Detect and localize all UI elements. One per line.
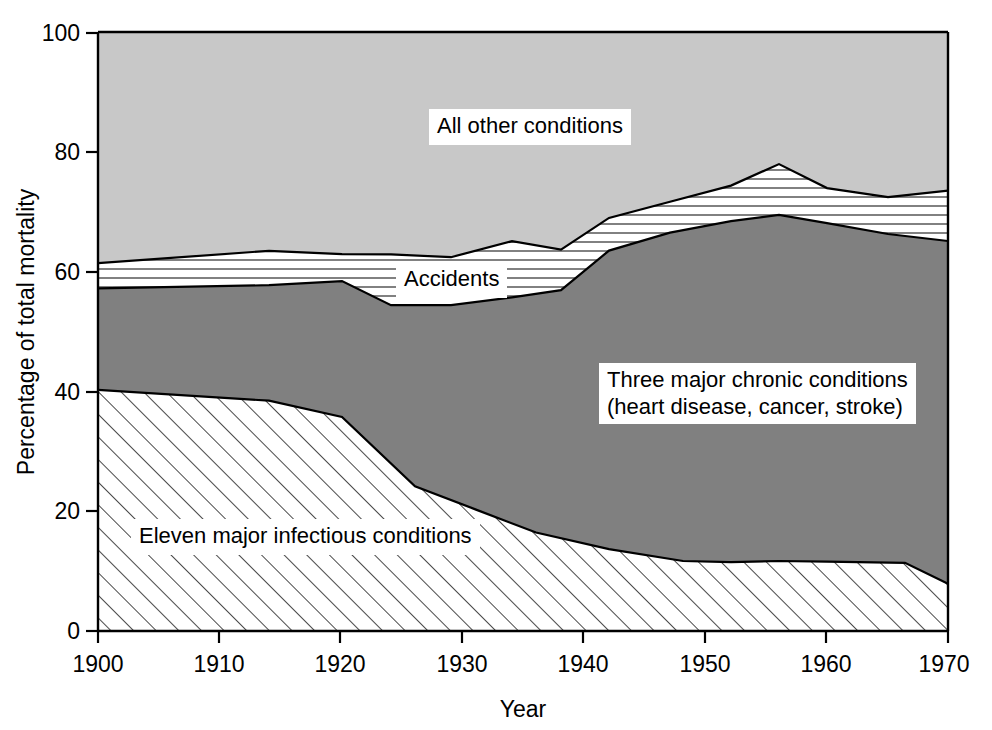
x-tick-label-1920: 1920 — [314, 651, 365, 677]
label-chronic-conditions-line2: (heart disease, cancer, stroke) — [607, 393, 908, 420]
label-chronic-conditions-line1: Three major chronic conditions — [607, 366, 908, 393]
y-tick-label-40: 40 — [54, 379, 80, 405]
x-tick-label-1910: 1910 — [193, 651, 244, 677]
label-accidents-text: Accidents — [404, 266, 499, 291]
y-tick-label-20: 20 — [54, 498, 80, 524]
y-tick-label-0: 0 — [67, 618, 80, 644]
x-tick-label-1960: 1960 — [800, 651, 851, 677]
x-axis-title: Year — [500, 696, 547, 722]
x-tick-label-1900: 1900 — [72, 651, 123, 677]
label-infectious-conditions: Eleven major infectious conditions — [131, 519, 480, 555]
mortality-area-chart: 100 80 60 40 20 0 1900 1910 1920 1930 19… — [0, 0, 992, 730]
y-tick-label-100: 100 — [42, 20, 80, 46]
label-chronic-conditions: Three major chronic conditions (heart di… — [599, 363, 916, 424]
y-tick-label-60: 60 — [54, 259, 80, 285]
label-accidents: Accidents — [396, 262, 507, 298]
x-tick-label-1940: 1940 — [557, 651, 608, 677]
x-tick-label-1950: 1950 — [679, 651, 730, 677]
label-infectious-conditions-text: Eleven major infectious conditions — [139, 523, 472, 548]
y-axis-ticks — [86, 33, 98, 631]
y-axis-title: Percentage of total mortality — [13, 188, 39, 475]
y-tick-label-80: 80 — [54, 139, 80, 165]
x-tick-label-1970: 1970 — [918, 651, 969, 677]
x-axis-ticks — [98, 631, 948, 643]
label-all-other-conditions: All other conditions — [429, 109, 631, 145]
label-all-other-conditions-text: All other conditions — [437, 113, 623, 138]
x-tick-label-1930: 1930 — [436, 651, 487, 677]
